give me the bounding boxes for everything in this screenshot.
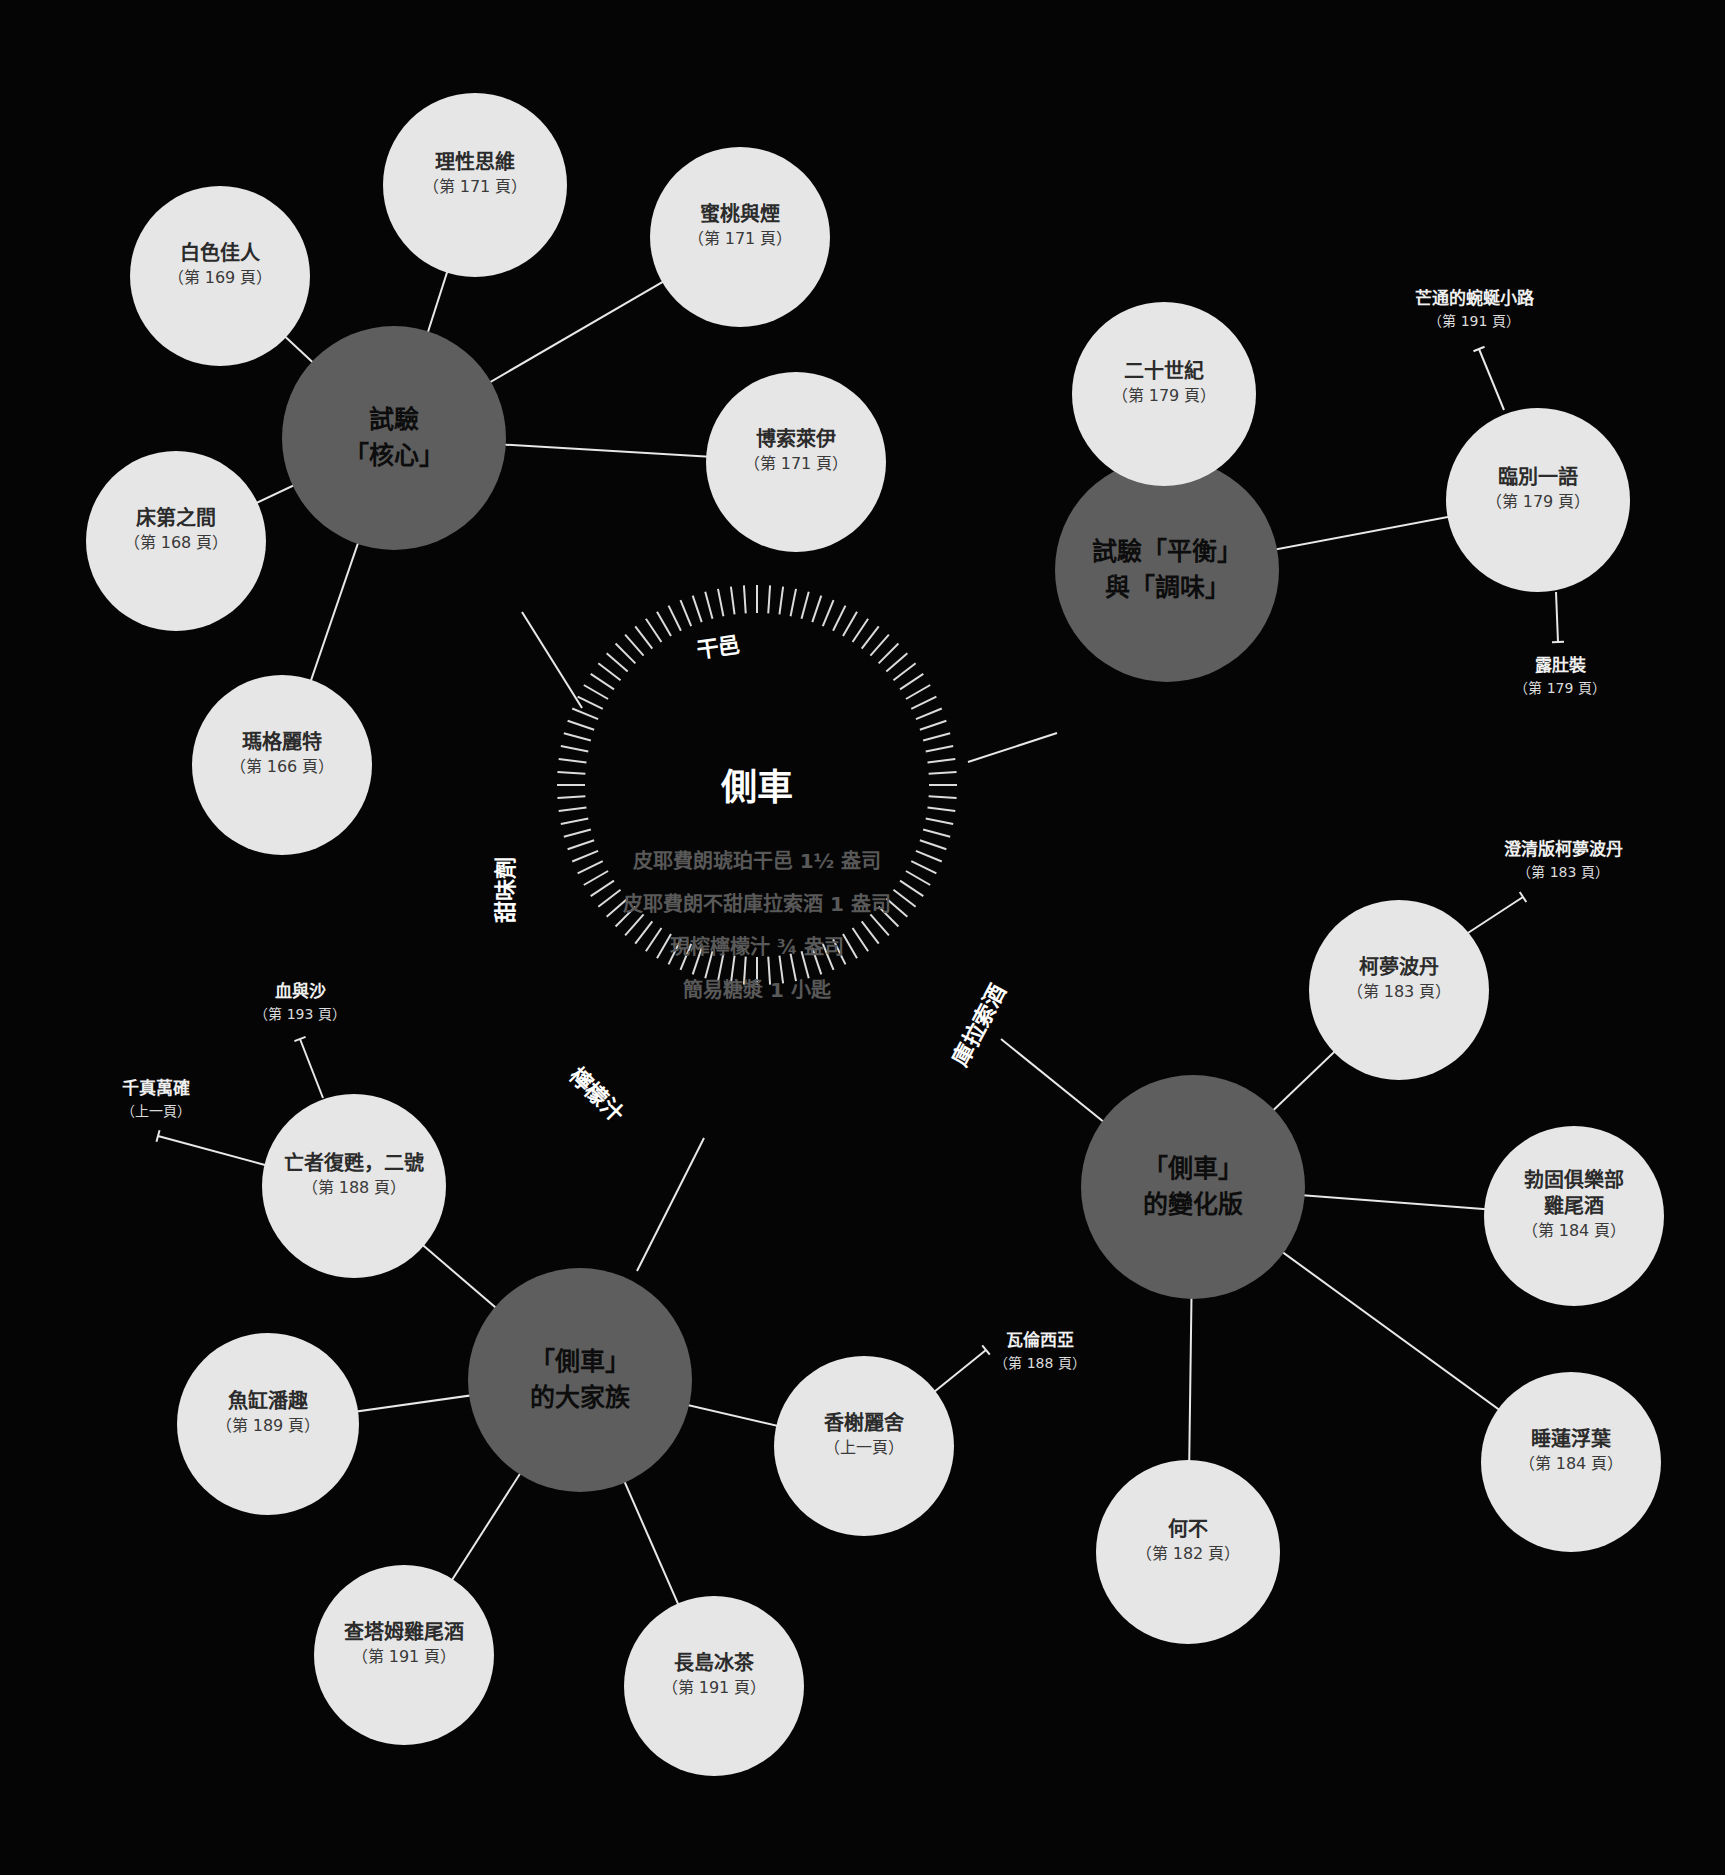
cocktail-name: 何不	[1168, 1516, 1208, 1542]
ring-label-sweetener: 甜味劑	[487, 857, 519, 923]
hub-node-balance: 試驗「平衡」 與「調味」	[1055, 458, 1279, 682]
hub-label: 試驗 「核心」	[344, 402, 444, 475]
cocktail-node-rational: 理性思維（第 171 頁）	[383, 93, 567, 277]
hub-node-core: 試驗 「核心」	[282, 326, 506, 550]
external-reference-clarified-cosmo: 澄清版柯夢波丹（第 183 頁）	[1504, 838, 1623, 883]
hub-label: 「側車」 的大家族	[530, 1344, 630, 1417]
ring-label-cognac: 干邑	[694, 626, 742, 664]
cocktail-node-pegu-club: 勃固俱樂部 雞尾酒（第 184 頁）	[1484, 1126, 1664, 1306]
page-reference: （第 189 頁）	[216, 1414, 321, 1438]
page-reference: （第 183 頁）	[1347, 980, 1452, 1004]
page-reference: （第 179 頁）	[1514, 678, 1606, 699]
cocktail-node-corpse-reviver-2: 亡者復甦，二號（第 188 頁）	[262, 1094, 446, 1278]
cocktail-name: 亡者復甦，二號	[284, 1150, 424, 1176]
hub-label: 試驗「平衡」 與「調味」	[1092, 534, 1242, 607]
cocktail-name: 博索萊伊	[756, 426, 836, 452]
cocktail-name: 露肚裝	[1514, 654, 1606, 678]
page-reference: （上一頁）	[121, 1101, 191, 1122]
ingredient-list: 皮耶費朗琥珀干邑 1½ 盎司 皮耶費朗不甜庫拉索酒 1 盎司 現榨檸檬汁 ¾ 盎…	[557, 840, 957, 1012]
page-reference: （第 191 頁）	[1415, 311, 1534, 332]
page-reference: （第 171 頁）	[744, 452, 849, 476]
cocktail-node-last-word: 臨別一語（第 179 頁）	[1446, 408, 1630, 592]
external-reference-valencia: 瓦倫西亞（第 188 頁）	[994, 1329, 1086, 1374]
cocktail-name: 床第之間	[136, 505, 216, 531]
cocktail-name: 澄清版柯夢波丹	[1504, 838, 1623, 862]
cocktail-node-long-island: 長島冰茶（第 191 頁）	[624, 1596, 804, 1776]
cocktail-name: 蜜桃與煙	[700, 201, 780, 227]
cocktail-node-fish-house-punch: 魚缸潘趣（第 189 頁）	[177, 1333, 359, 1515]
cocktail-node-champs-elysees: 香榭麗舍（上一頁）	[774, 1356, 954, 1536]
cocktail-name: 理性思維	[435, 149, 515, 175]
hub-node-family: 「側車」 的大家族	[468, 1268, 692, 1492]
page-reference: （第 184 頁）	[1519, 1452, 1624, 1476]
page-reference: （第 191 頁）	[662, 1676, 767, 1700]
cocktail-node-beausoleil: 博索萊伊（第 171 頁）	[706, 372, 886, 552]
cocktail-name: 香榭麗舍	[824, 1410, 904, 1436]
cocktail-name: 二十世紀	[1124, 358, 1204, 384]
page-reference: （第 179 頁）	[1112, 384, 1217, 408]
cocktail-name: 瓦倫西亞	[994, 1329, 1086, 1353]
cocktail-name: 長島冰茶	[674, 1650, 754, 1676]
cocktail-node-cosmopolitan: 柯夢波丹（第 183 頁）	[1309, 900, 1489, 1080]
external-reference-bikini: 露肚裝（第 179 頁）	[1514, 654, 1606, 699]
ingredient-item: 簡易糖漿 1 小匙	[557, 969, 957, 1012]
cocktail-name: 查塔姆雞尾酒	[344, 1619, 464, 1645]
page-reference: （第 193 頁）	[254, 1004, 346, 1025]
cocktail-name: 瑪格麗特	[242, 729, 322, 755]
ingredient-item: 現榨檸檬汁 ¾ 盎司	[557, 926, 957, 969]
cocktail-node-water-lily: 睡蓮浮葉（第 184 頁）	[1481, 1372, 1661, 1552]
page-reference: （第 191 頁）	[352, 1645, 457, 1669]
cocktail-name: 千真萬確	[121, 1077, 191, 1101]
page-reference: （上一頁）	[824, 1436, 904, 1460]
page-reference: （第 169 頁）	[168, 266, 273, 290]
cocktail-node-why-not: 何不（第 182 頁）	[1096, 1460, 1280, 1644]
page-reference: （第 171 頁）	[423, 175, 528, 199]
cocktail-name: 芒通的蜿蜒小路	[1415, 287, 1534, 311]
page-reference: （第 183 頁）	[1504, 862, 1623, 883]
cocktail-name: 白色佳人	[180, 240, 260, 266]
ingredient-item: 皮耶費朗琥珀干邑 1½ 盎司	[557, 840, 957, 883]
page-reference: （第 188 頁）	[302, 1176, 407, 1200]
external-reference-mango-mule: 芒通的蜿蜒小路（第 191 頁）	[1415, 287, 1534, 332]
page-reference: （第 168 頁）	[124, 531, 229, 555]
hub-label: 「側車」 的變化版	[1143, 1151, 1243, 1224]
page-reference: （第 188 頁）	[994, 1353, 1086, 1374]
page-reference: （第 166 頁）	[230, 755, 335, 779]
cocktail-name: 睡蓮浮葉	[1531, 1426, 1611, 1452]
cocktail-node-between-sheets: 床第之間（第 168 頁）	[86, 451, 266, 631]
page-reference: （第 184 頁）	[1522, 1219, 1627, 1243]
cocktail-name: 臨別一語	[1498, 464, 1578, 490]
cocktail-node-margarita: 瑪格麗特（第 166 頁）	[192, 675, 372, 855]
center-title: 側車	[657, 758, 857, 810]
page-reference: （第 171 頁）	[688, 227, 793, 251]
cocktail-node-chatham: 查塔姆雞尾酒（第 191 頁）	[314, 1565, 494, 1745]
page-reference: （第 182 頁）	[1136, 1542, 1241, 1566]
cocktail-node-white-lady: 白色佳人（第 169 頁）	[130, 186, 310, 366]
cocktail-node-peach-smoke: 蜜桃與煙（第 171 頁）	[650, 147, 830, 327]
cocktail-name: 魚缸潘趣	[228, 1388, 308, 1414]
ingredient-item: 皮耶費朗不甜庫拉索酒 1 盎司	[557, 883, 957, 926]
external-reference-sure-thing: 千真萬確（上一頁）	[121, 1077, 191, 1122]
cocktail-name: 柯夢波丹	[1359, 954, 1439, 980]
cocktail-node-twentieth-century: 二十世紀（第 179 頁）	[1072, 302, 1256, 486]
cocktail-name: 血與沙	[254, 980, 346, 1004]
page-reference: （第 179 頁）	[1486, 490, 1591, 514]
hub-node-variations: 「側車」 的變化版	[1081, 1075, 1305, 1299]
cocktail-name: 勃固俱樂部 雞尾酒	[1524, 1167, 1624, 1219]
external-reference-blood-and-sand: 血與沙（第 193 頁）	[254, 980, 346, 1025]
